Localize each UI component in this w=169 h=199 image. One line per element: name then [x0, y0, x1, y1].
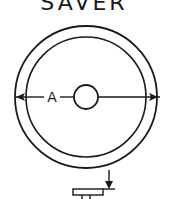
diagram-title: SAVER: [40, 0, 127, 15]
side-profile-rect: [73, 189, 103, 195]
saver-diagram: SAVER A: [0, 0, 169, 199]
side-view-profile: [73, 170, 115, 199]
dimension-label: A: [47, 89, 57, 105]
center-hole-circle: [74, 85, 98, 109]
pointer-arrow-icon: [105, 181, 113, 189]
dimension-line-a: A: [16, 89, 160, 105]
